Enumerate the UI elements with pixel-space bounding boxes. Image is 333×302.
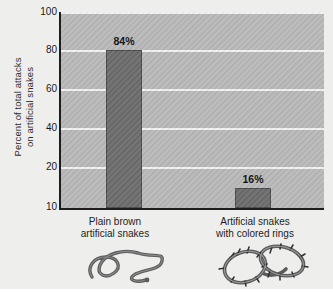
category-label-plain-brown-line-1: Plain brown — [62, 216, 168, 228]
bar-value-label-plain-brown: 84% — [98, 36, 150, 47]
y-tick-40: 40 — [31, 123, 57, 133]
category-label-colored-rings-line-2: with colored rings — [192, 228, 318, 240]
gridline-100 — [61, 12, 324, 14]
y-axis-tick-labels: 100 80 60 40 20 10 — [28, 0, 57, 289]
category-label-colored-rings-line-1: Artificial snakes — [192, 216, 318, 228]
gridline-80 — [61, 50, 324, 52]
plot-area: 84% 16% — [59, 12, 324, 210]
y-tick-60: 60 — [31, 84, 57, 94]
y-tick-100: 100 — [31, 7, 57, 17]
chart-figure: Percent of total attacks on artificial s… — [0, 0, 333, 289]
category-label-colored-rings: Artificial snakes with colored rings — [192, 216, 318, 240]
bar-colored-rings[interactable] — [235, 188, 271, 208]
y-tick-10: 10 — [31, 202, 57, 212]
gridline-20 — [61, 167, 324, 169]
ringed-snakes-icon — [216, 241, 314, 293]
gridline-60 — [61, 89, 324, 91]
y-tick-80: 80 — [31, 45, 57, 55]
category-label-plain-brown-line-2: artificial snakes — [62, 228, 168, 240]
bar-plain-brown[interactable] — [106, 50, 142, 208]
bar-value-label-colored-rings: 16% — [227, 174, 279, 185]
y-axis-title-line-1: Percent of total attacks — [12, 17, 24, 197]
plain-brown-snake-icon — [84, 243, 176, 291]
gridline-40 — [61, 128, 324, 130]
category-label-plain-brown: Plain brown artificial snakes — [62, 216, 168, 240]
y-tick-20: 20 — [31, 162, 57, 172]
